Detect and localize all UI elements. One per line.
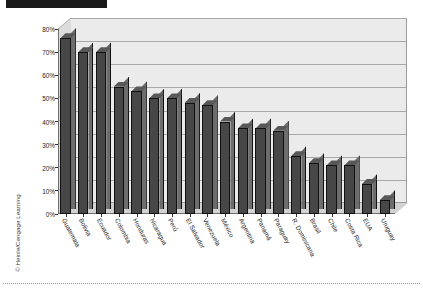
x-axis-label: Honduras <box>131 217 150 245</box>
x-axis-label: Panamá <box>255 217 272 241</box>
bar-uruguay <box>380 195 390 214</box>
x-axis-label: Uruguay <box>380 217 398 242</box>
bar-side-face <box>213 95 218 209</box>
bar-chart: 0%10%20%30%40%50%60%70%80% GuatemalaBoli… <box>33 18 415 278</box>
bar-front-face <box>273 131 283 214</box>
x-axis-label: Argentina <box>238 217 257 245</box>
x-axis-label: Colombia <box>114 217 133 244</box>
bar-el-salvador <box>185 98 195 214</box>
x-axis-labels: GuatemalaBoliviaEcuadorColombiaHondurasN… <box>58 217 418 287</box>
bar-venezuela <box>202 100 212 214</box>
bar-colombia <box>114 82 124 214</box>
bar-argentina <box>238 123 248 214</box>
bar-front-face <box>326 165 336 214</box>
bar-front-face <box>344 165 354 214</box>
bar-m-xico <box>220 117 230 215</box>
bar-side-face <box>88 42 93 209</box>
bar-side-face <box>177 88 182 209</box>
bar-front-face <box>309 163 319 214</box>
bar-front-face <box>380 200 390 214</box>
bar-side-face <box>284 121 289 209</box>
y-axis-tick-label: 80% <box>29 26 58 33</box>
figure-page: © Heinle/Cengage Learning 0%10%20%30%40%… <box>0 0 423 293</box>
page-dotted-rule <box>3 283 420 285</box>
bar-front-face <box>131 91 141 214</box>
y-axis-tick-label: 20% <box>29 164 58 171</box>
bar-front-face <box>167 98 177 214</box>
bar-side-face <box>230 112 235 210</box>
bar-side-face <box>390 190 395 209</box>
bar-front-face <box>238 128 248 214</box>
bar-series <box>58 18 408 215</box>
bar-per <box>167 93 177 214</box>
bar-front-face <box>96 52 106 214</box>
bar-eua <box>362 179 372 214</box>
y-axis-tick-label: 50% <box>29 95 58 102</box>
y-axis-tick-label: 60% <box>29 72 58 79</box>
x-axis-label: Ecuador <box>96 217 113 241</box>
y-axis-tick-label: 10% <box>29 187 58 194</box>
bar-front-face <box>149 98 159 214</box>
bar-honduras <box>131 86 141 214</box>
bar-front-face <box>78 52 88 214</box>
bar-side-face <box>301 146 306 209</box>
bar-costa-rica <box>344 160 354 214</box>
bar-side-face <box>142 81 147 209</box>
top-black-marker <box>6 0 107 8</box>
bar-paraguay <box>273 126 283 214</box>
x-axis-label: Perú <box>167 217 180 232</box>
x-axis-label: Paraguay <box>273 217 292 245</box>
bar-chile <box>326 160 336 214</box>
bar-side-face <box>195 93 200 209</box>
bar-side-face <box>248 118 253 209</box>
bar-front-face <box>202 105 212 214</box>
x-axis-label: Chile <box>326 217 339 233</box>
bar-r-dominicana <box>291 151 301 214</box>
bar-nicaragua <box>149 93 159 214</box>
y-axis-tick-label: 30% <box>29 141 58 148</box>
bar-guatemala <box>60 33 70 214</box>
bar-front-face <box>255 128 265 214</box>
bar-front-face <box>220 122 230 215</box>
bar-bolivia <box>78 47 88 214</box>
bar-brasil <box>309 158 319 214</box>
x-axis-label: EUA <box>362 217 374 232</box>
x-axis-label: Bolivia <box>78 217 93 237</box>
bar-front-face <box>291 156 301 214</box>
bar-side-face <box>124 77 129 209</box>
bar-side-face <box>159 88 164 209</box>
bar-front-face <box>60 38 70 214</box>
bar-panam <box>255 123 265 214</box>
bar-side-face <box>71 28 76 209</box>
y-axis-tick-label: 0% <box>29 211 58 218</box>
y-axis-tick-label: 40% <box>29 118 58 125</box>
bar-side-face <box>266 118 271 209</box>
x-axis-label: Brasil <box>309 217 323 235</box>
y-axis-tick-label: 70% <box>29 49 58 56</box>
bar-side-face <box>106 42 111 209</box>
bar-front-face <box>114 87 124 214</box>
bar-ecuador <box>96 47 106 214</box>
x-axis-label: Nicaragua <box>149 217 169 246</box>
x-axis-label: México <box>220 217 236 238</box>
bar-front-face <box>185 103 195 214</box>
bar-front-face <box>362 184 372 214</box>
